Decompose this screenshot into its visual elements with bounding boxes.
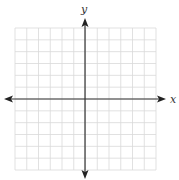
y-axis-label: y (80, 3, 88, 16)
x-axis-label: x (170, 93, 177, 106)
coordinate-plane: x y (0, 0, 179, 180)
